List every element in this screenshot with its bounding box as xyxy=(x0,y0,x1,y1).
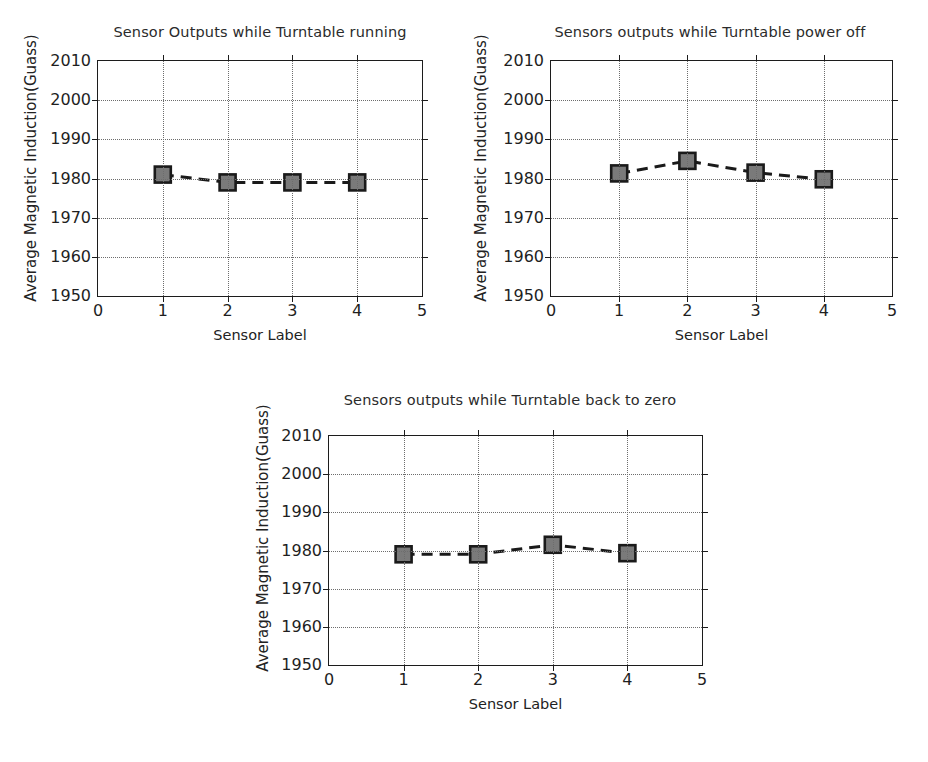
y-axis-tick-mark-right xyxy=(892,139,898,140)
y-axis-tick-mark-right xyxy=(422,218,428,219)
grid-line-horizontal xyxy=(98,100,422,101)
grid-line-horizontal xyxy=(329,627,702,628)
grid-line-horizontal xyxy=(551,100,892,101)
chart-title: Sensors outputs while Turntable power of… xyxy=(470,24,910,40)
x-axis-tick-mark-top xyxy=(756,55,757,61)
y-axis-tick-label: 2010 xyxy=(50,53,91,69)
x-axis-tick-mark-top xyxy=(687,55,688,61)
y-axis-tick-label: 1970 xyxy=(50,210,91,226)
grid-line-vertical xyxy=(553,436,554,665)
grid-line-horizontal xyxy=(98,179,422,180)
grid-line-vertical xyxy=(756,61,757,296)
chart-panel-turntable-back-to-zero: Sensors outputs while Turntable back to … xyxy=(248,392,716,752)
y-axis-tick-mark xyxy=(545,179,551,180)
y-axis-tick-mark-right xyxy=(892,179,898,180)
x-axis-tick-label: 1 xyxy=(399,672,409,688)
y-axis-title: Average Magnetic Induction(Guass) xyxy=(20,18,42,318)
x-axis-tick-label: 2 xyxy=(473,672,483,688)
x-axis-tick-label: 3 xyxy=(287,303,297,319)
x-axis-tick-label: 3 xyxy=(751,303,761,319)
x-axis-tick-label: 2 xyxy=(682,303,692,319)
grid-line-horizontal xyxy=(329,474,702,475)
x-axis-tick-mark-top xyxy=(627,430,628,436)
y-axis-title-text: Average Magnetic Induction(Guass) xyxy=(254,404,272,671)
x-axis-tick-mark-top xyxy=(292,55,293,61)
y-axis-tick-mark xyxy=(545,218,551,219)
y-axis-tick-label: 1990 xyxy=(281,504,322,520)
chart-panel-turntable-power-off: Sensors outputs while Turntable power of… xyxy=(470,24,910,380)
x-axis-tick-label: 0 xyxy=(93,303,103,319)
y-axis-tick-label: 1960 xyxy=(50,249,91,265)
chart-title: Sensor Outputs while Turntable running xyxy=(18,24,436,40)
y-axis-tick-label: 1980 xyxy=(281,543,322,559)
x-axis-tick-label: 2 xyxy=(223,303,233,319)
y-axis-title: Average Magnetic Induction(Guass) xyxy=(252,388,274,688)
grid-line-horizontal xyxy=(98,139,422,140)
x-axis-tick-mark-top xyxy=(228,55,229,61)
x-axis-title: Sensor Label xyxy=(551,327,892,343)
x-axis-tick-mark-top xyxy=(619,55,620,61)
grid-line-vertical xyxy=(292,61,293,296)
y-axis-tick-label: 1990 xyxy=(50,131,91,147)
x-axis-tick-label: 4 xyxy=(622,672,632,688)
x-axis-tick-mark-top xyxy=(478,430,479,436)
y-axis-tick-label: 1950 xyxy=(503,288,544,304)
y-axis-tick-mark-right xyxy=(702,551,708,552)
x-axis-tick-mark-top xyxy=(824,55,825,61)
y-axis-tick-label: 2000 xyxy=(281,466,322,482)
chart-title: Sensors outputs while Turntable back to … xyxy=(248,392,716,408)
x-axis-tick-label: 1 xyxy=(158,303,168,319)
y-axis-tick-mark-right xyxy=(422,100,428,101)
y-axis-tick-mark xyxy=(92,139,98,140)
y-axis-tick-mark-right xyxy=(702,474,708,475)
grid-line-vertical xyxy=(687,61,688,296)
grid-line-vertical xyxy=(824,61,825,296)
y-axis-tick-label: 1980 xyxy=(50,171,91,187)
x-axis-tick-mark-top xyxy=(357,55,358,61)
y-axis-tick-mark xyxy=(323,474,329,475)
x-axis-tick-label: 1 xyxy=(614,303,624,319)
grid-line-vertical xyxy=(163,61,164,296)
y-axis-tick-mark xyxy=(323,551,329,552)
grid-line-vertical xyxy=(404,436,405,665)
grid-line-horizontal xyxy=(551,257,892,258)
grid-line-horizontal xyxy=(98,218,422,219)
y-axis-tick-mark-right xyxy=(892,218,898,219)
y-axis-tick-mark-right xyxy=(702,589,708,590)
y-axis-tick-mark-right xyxy=(422,257,428,258)
x-axis-title: Sensor Label xyxy=(329,696,702,712)
grid-line-horizontal xyxy=(551,139,892,140)
y-axis-tick-label: 2010 xyxy=(281,428,322,444)
y-axis-tick-label: 1960 xyxy=(503,249,544,265)
y-axis-tick-mark xyxy=(545,257,551,258)
x-axis-tick-mark-top xyxy=(163,55,164,61)
y-axis-tick-mark-right xyxy=(422,179,428,180)
y-axis-tick-mark-right xyxy=(702,512,708,513)
y-axis-tick-label: 1950 xyxy=(281,657,322,673)
grid-line-vertical xyxy=(619,61,620,296)
x-axis-title: Sensor Label xyxy=(98,327,422,343)
y-axis-tick-mark xyxy=(92,100,98,101)
grid-line-vertical xyxy=(478,436,479,665)
y-axis-tick-mark-right xyxy=(892,100,898,101)
y-axis-tick-mark xyxy=(323,589,329,590)
y-axis-tick-mark-right xyxy=(892,257,898,258)
x-axis-tick-label: 5 xyxy=(697,672,707,688)
x-axis-tick-label: 3 xyxy=(548,672,558,688)
y-axis-tick-label: 1990 xyxy=(503,131,544,147)
x-axis-tick-mark-top xyxy=(404,430,405,436)
y-axis-tick-label: 2010 xyxy=(503,53,544,69)
y-axis-tick-mark xyxy=(92,179,98,180)
x-axis-tick-label: 4 xyxy=(352,303,362,319)
grid-line-horizontal xyxy=(329,512,702,513)
x-axis-tick-mark-top xyxy=(553,430,554,436)
plot-area: Sensor Label 195019601970198019902000201… xyxy=(550,60,893,297)
plot-area: Sensor Label 195019601970198019902000201… xyxy=(97,60,423,297)
plot-area: Sensor Label 195019601970198019902000201… xyxy=(328,435,703,666)
grid-line-vertical xyxy=(627,436,628,665)
x-axis-tick-label: 0 xyxy=(546,303,556,319)
y-axis-tick-label: 2000 xyxy=(503,92,544,108)
y-axis-tick-mark xyxy=(323,627,329,628)
grid-line-horizontal xyxy=(98,257,422,258)
y-axis-tick-mark xyxy=(545,139,551,140)
